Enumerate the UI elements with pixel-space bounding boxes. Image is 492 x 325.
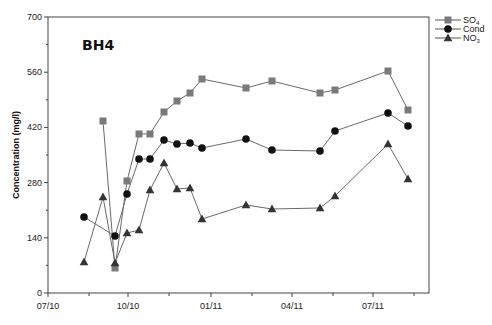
square-marker <box>161 109 168 116</box>
legend-label: NO3 <box>463 33 481 44</box>
circle-marker <box>135 155 143 163</box>
square-marker <box>199 76 206 83</box>
circle-marker <box>160 136 168 144</box>
y-tick-label: 700 <box>27 12 42 22</box>
series-so4 <box>100 68 412 272</box>
square-marker <box>136 131 143 138</box>
y-tick-label: 140 <box>27 233 42 243</box>
square-marker <box>187 90 194 97</box>
triangle-marker <box>444 34 453 42</box>
square-marker <box>385 68 392 75</box>
circle-marker <box>198 144 206 152</box>
triangle-marker <box>242 201 251 209</box>
circle-marker <box>242 135 250 143</box>
circle-marker <box>268 146 276 154</box>
triangle-marker <box>111 259 120 267</box>
y-axis: 0140280420560700 <box>27 12 48 298</box>
series-cond <box>80 109 412 240</box>
x-tick-label: 07/10 <box>37 301 60 311</box>
y-tick-label: 0 <box>37 288 42 298</box>
x-tick-label: 04/11 <box>281 301 303 311</box>
triangle-marker <box>99 193 108 201</box>
circle-marker <box>80 213 88 221</box>
square-marker <box>124 178 131 185</box>
circle-marker <box>146 155 154 163</box>
y-tick-label: 560 <box>27 67 42 77</box>
legend-item-no3: NO3 <box>435 33 481 44</box>
square-marker <box>269 78 276 85</box>
triangle-marker <box>384 140 393 148</box>
series-no3 <box>80 140 413 267</box>
square-marker <box>243 85 250 92</box>
square-marker <box>317 90 324 97</box>
y-tick-label: 420 <box>27 122 42 132</box>
square-marker <box>405 107 412 114</box>
x-tick-label: 07/11 <box>362 301 384 311</box>
plot-frame <box>48 17 429 293</box>
square-marker <box>100 118 107 125</box>
square-marker <box>445 17 452 24</box>
legend-item-cond: Cond <box>435 24 485 34</box>
data-series <box>80 68 413 272</box>
square-marker <box>174 98 181 105</box>
circle-marker <box>123 190 131 198</box>
circle-marker <box>173 140 181 148</box>
triangle-marker <box>80 258 89 266</box>
triangle-marker <box>160 159 169 167</box>
circle-marker <box>444 25 452 33</box>
triangle-marker <box>404 175 413 183</box>
circle-marker <box>316 147 324 155</box>
x-tick-label: 01/11 <box>200 301 222 311</box>
circle-marker <box>384 109 392 117</box>
triangle-marker <box>186 184 195 192</box>
line-chart: 0140280420560700 07/1010/1001/1104/1107/… <box>0 0 492 325</box>
chart-title: BH4 <box>82 37 114 53</box>
triangle-marker <box>316 204 325 212</box>
x-axis: 07/1010/1001/1104/1107/11 <box>37 293 414 311</box>
triangle-marker <box>135 226 144 234</box>
circle-marker <box>186 139 194 147</box>
circle-marker <box>404 122 412 130</box>
y-tick-label: 280 <box>27 178 42 188</box>
x-tick-label: 10/10 <box>117 301 140 311</box>
series-line <box>84 113 408 236</box>
circle-marker <box>331 127 339 135</box>
plot-border <box>48 17 429 293</box>
square-marker <box>147 131 154 138</box>
legend: SO4CondNO3 <box>435 15 485 44</box>
circle-marker <box>111 232 119 240</box>
triangle-marker <box>146 186 155 194</box>
y-axis-title: Concentration (mg/l) <box>11 111 21 199</box>
square-marker <box>332 87 339 94</box>
